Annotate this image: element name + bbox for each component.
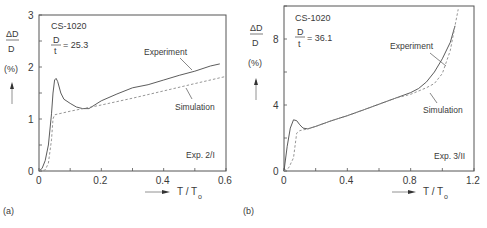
simulation-leader-a bbox=[186, 88, 192, 99]
ratio-den-a: t bbox=[54, 46, 57, 56]
experiment-leader-a bbox=[180, 58, 192, 70]
y-tick-label: 1 bbox=[28, 114, 34, 125]
x-arrow-head-a bbox=[162, 190, 170, 194]
experiment-leader-b bbox=[430, 53, 446, 66]
y-tick-label: 3 bbox=[28, 10, 34, 21]
chart-a: 00.20.40.60123 CS-1020 D t = 25.3 Experi… bbox=[3, 10, 232, 216]
specimen-label-a: CS-1020 bbox=[51, 21, 87, 31]
ylabel-den-b: D bbox=[252, 38, 259, 48]
ratio-value-b: = 36.1 bbox=[307, 33, 332, 43]
ylabel-num-a: ΔD bbox=[6, 29, 19, 39]
x-tick-label: 0.2 bbox=[93, 175, 107, 186]
experiment-label-a: Experiment bbox=[144, 47, 188, 57]
exp-id-b: Exp. 3/II bbox=[434, 151, 465, 161]
xlabel-sub-a: o bbox=[198, 193, 202, 200]
simulation-leader-b bbox=[430, 93, 437, 103]
ratio-num-b: D bbox=[297, 27, 304, 37]
xlabel-sub-b: o bbox=[444, 193, 448, 200]
x-tick-label: 1.2 bbox=[466, 175, 480, 186]
panel-label-b: (b) bbox=[243, 206, 254, 216]
y-tick-label: 0 bbox=[273, 166, 279, 177]
figure: 00.20.40.60123 CS-1020 D t = 25.3 Experi… bbox=[0, 0, 487, 228]
y-tick-label: 2 bbox=[28, 62, 34, 73]
x-arrow-head-b bbox=[408, 190, 416, 194]
x-tick-label: 0.4 bbox=[156, 175, 170, 186]
plot-frame-a bbox=[39, 15, 226, 171]
ratio-value-a: = 25.3 bbox=[63, 40, 88, 50]
ylabel-unit-a: (%) bbox=[4, 64, 18, 74]
y-tick-label: 0 bbox=[28, 166, 34, 177]
panel-label-a: (a) bbox=[3, 206, 14, 216]
ratio-num-a: D bbox=[53, 35, 60, 45]
y-arrow-head-b bbox=[254, 78, 258, 85]
ylabel-unit-b: (%) bbox=[248, 58, 262, 68]
simulation-label-b: Simulation bbox=[423, 105, 463, 115]
x-tick-label: 0 bbox=[281, 175, 287, 186]
xlabel-a: T / T bbox=[177, 186, 197, 197]
simulation-label-a: Simulation bbox=[175, 102, 215, 112]
y-arrow-head-a bbox=[10, 82, 14, 89]
y-tick-label: 8 bbox=[273, 34, 279, 45]
y-tick-label: 4 bbox=[273, 100, 279, 111]
chart-b: 00.40.81.2048 CS-1020 D t = 36.1 Experim… bbox=[243, 6, 480, 216]
x-tick-label: 0.8 bbox=[403, 175, 417, 186]
x-tick-label: 0.4 bbox=[339, 175, 353, 186]
ylabel-den-a: D bbox=[8, 44, 15, 54]
ylabel-num-b: ΔD bbox=[250, 23, 263, 33]
ratio-den-b: t bbox=[298, 39, 301, 49]
plot-frame-b bbox=[284, 6, 474, 171]
exp-id-a: Exp. 2/I bbox=[186, 150, 215, 160]
x-tick-label: 0.6 bbox=[218, 175, 232, 186]
xlabel-b: T / T bbox=[423, 186, 443, 197]
x-tick-label: 0 bbox=[36, 175, 42, 186]
specimen-label-b: CS-1020 bbox=[295, 13, 331, 23]
experiment-label-b: Experiment bbox=[390, 41, 434, 51]
